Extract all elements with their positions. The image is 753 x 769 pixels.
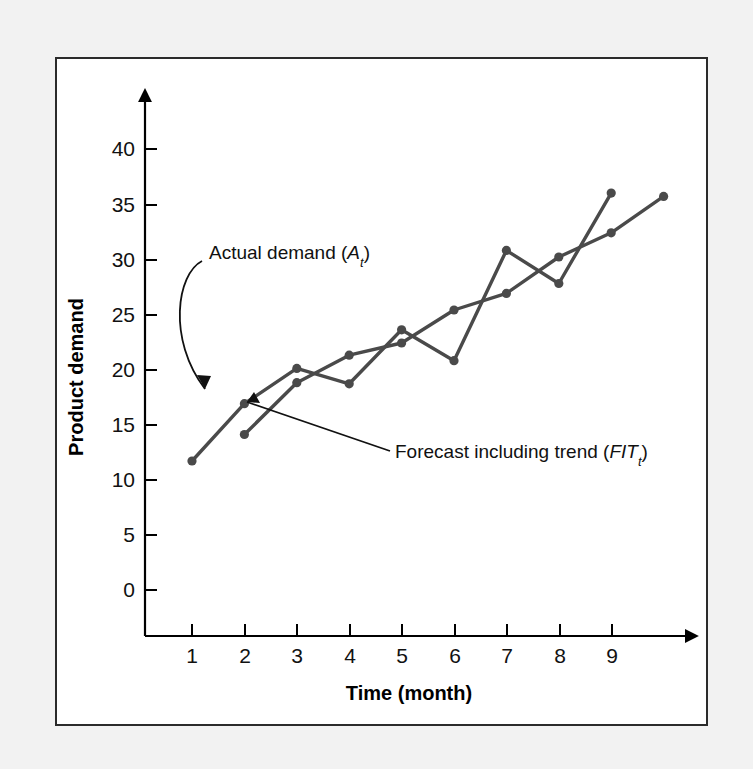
y-tick-label-25: 25 — [112, 303, 135, 326]
annotation-actual-demand: Actual demand (At) — [180, 242, 370, 389]
annotation-forecast-trend: Forecast including trend (FITt) — [247, 392, 648, 469]
data-point — [554, 279, 563, 288]
x-tick-label-9: 9 — [606, 644, 618, 667]
data-point — [187, 456, 196, 465]
data-point — [607, 189, 616, 198]
forecast-trend-symbol: FIT — [609, 441, 639, 462]
data-point — [449, 305, 458, 314]
y-axis-title: Product demand — [65, 298, 87, 456]
series-line-1 — [244, 196, 663, 434]
x-tick-group: 1 2 3 4 5 6 7 8 9 — [186, 624, 618, 667]
x-tick-label-1: 1 — [186, 644, 198, 667]
data-point — [345, 379, 354, 388]
y-tick-label-20: 20 — [112, 358, 135, 381]
x-axis-title: Time (month) — [346, 682, 472, 704]
forecast-trend-close-paren: ) — [642, 441, 648, 462]
data-point — [240, 430, 249, 439]
data-point — [502, 246, 511, 255]
x-tick-label-6: 6 — [449, 644, 461, 667]
y-tick-group: 40 35 30 25 20 15 10 5 0 — [112, 137, 157, 601]
actual-demand-label-text: Actual demand ( — [209, 242, 348, 263]
series-layer — [187, 189, 668, 466]
x-tick-label-3: 3 — [291, 644, 303, 667]
actual-demand-close-paren: ) — [364, 242, 370, 263]
data-point — [397, 325, 406, 334]
x-tick-label-2: 2 — [239, 644, 251, 667]
data-point — [449, 356, 458, 365]
x-tick-label-7: 7 — [501, 644, 513, 667]
data-point — [659, 192, 668, 201]
forecast-trend-leader-line — [247, 402, 390, 451]
y-tick-label-35: 35 — [112, 193, 135, 216]
x-tick-label-4: 4 — [344, 644, 356, 667]
figure-frame: 40 35 30 25 20 15 10 5 0 1 2 3 4 5 6 — [55, 57, 708, 726]
data-point — [397, 338, 406, 347]
forecast-trend-label: Forecast including trend (FITt) — [395, 441, 648, 469]
forecast-trend-label-text: Forecast including trend ( — [395, 441, 610, 462]
y-tick-label-10: 10 — [112, 468, 135, 491]
x-tick-label-5: 5 — [396, 644, 408, 667]
data-point — [240, 399, 249, 408]
y-tick-label-15: 15 — [112, 413, 135, 436]
data-point — [607, 228, 616, 237]
actual-demand-symbol: A — [346, 242, 360, 263]
actual-demand-leader-line — [180, 261, 205, 389]
data-point — [502, 289, 511, 298]
chart-canvas: 40 35 30 25 20 15 10 5 0 1 2 3 4 5 6 — [57, 59, 706, 724]
y-tick-label-5: 5 — [123, 523, 135, 546]
x-tick-label-8: 8 — [554, 644, 566, 667]
actual-demand-label: Actual demand (At) — [209, 242, 370, 270]
y-tick-label-40: 40 — [112, 137, 135, 160]
data-point — [292, 364, 301, 373]
data-point — [292, 378, 301, 387]
data-point — [554, 252, 563, 261]
y-tick-label-0: 0 — [123, 578, 135, 601]
data-point — [345, 351, 354, 360]
y-tick-label-30: 30 — [112, 248, 135, 271]
